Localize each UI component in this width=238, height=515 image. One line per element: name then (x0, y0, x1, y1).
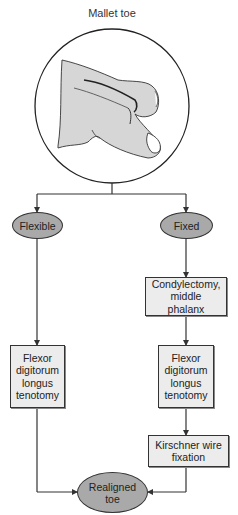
node-flexor-tenotomy-right-label: Flexor digitorum longus tenotomy (164, 352, 207, 402)
diagram-title: Mallet toe (0, 7, 224, 19)
node-flexor-tenotomy-right: Flexor digitorum longus tenotomy (158, 345, 214, 408)
node-fixed: Fixed (160, 212, 213, 239)
node-realigned-toe-label: Realigned toe (89, 481, 136, 505)
node-flexible: Flexible (12, 212, 63, 239)
node-fixed-label: Fixed (174, 220, 200, 232)
node-kirschner-wire: Kirschner wire fixation (148, 435, 229, 467)
node-realigned-toe: Realigned toe (77, 472, 148, 513)
node-condylectomy: Condylectomy, middle phalanx (145, 277, 227, 316)
node-flexor-tenotomy-left: Flexor digitorum longus tenotomy (10, 345, 65, 408)
node-kirschner-wire-label: Kirschner wire fixation (155, 439, 222, 464)
mallet-toe-illustration (35, 29, 189, 183)
node-flexible-label: Flexible (19, 220, 55, 232)
node-condylectomy-label: Condylectomy, middle phalanx (152, 278, 221, 316)
node-flexor-tenotomy-left-label: Flexor digitorum longus tenotomy (16, 352, 59, 402)
